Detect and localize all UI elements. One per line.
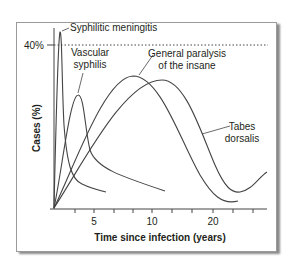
label-vascular-line2: syphilis (74, 59, 107, 70)
series-vascular-syphilis (54, 95, 165, 208)
x-tick-label-20: 20 (207, 216, 219, 227)
y-tick-label-40: 40% (24, 40, 44, 51)
label-syphilitic-meningitis: Syphilitic meningitis (70, 22, 157, 33)
label-tabes-line1: Tabes (229, 121, 256, 132)
leader-vascular (78, 73, 83, 93)
leader-meningitis (62, 28, 69, 31)
label-tabes-line2: dorsalis (225, 133, 259, 144)
chart-svg: 40% 5 10 20 Time since infection (years)… (0, 0, 288, 263)
series-tabes-dorsalis (54, 80, 267, 208)
label-gpi-line2: of the insane (158, 60, 216, 71)
y-axis-label: Cases (%) (31, 104, 42, 152)
label-vascular-line1: Vascular (71, 47, 110, 58)
series-general-paralysis (54, 76, 238, 208)
x-axis-ticks (75, 209, 253, 213)
label-gpi-line1: General paralysis (148, 48, 226, 59)
x-tick-label-5: 5 (91, 216, 97, 227)
x-tick-label-10: 10 (146, 216, 158, 227)
x-axis-label: Time since infection (years) (94, 232, 226, 243)
